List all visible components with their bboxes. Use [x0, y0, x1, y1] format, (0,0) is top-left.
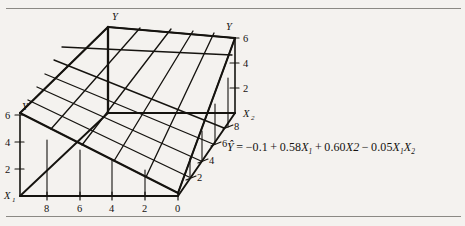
equation-term-3-sign: − — [359, 140, 371, 154]
left-tick-2: 2 — [5, 164, 10, 175]
left-tick-4: 4 — [5, 137, 11, 148]
equation-term-3-var1: X — [393, 140, 400, 154]
left-tick-6: 6 — [5, 110, 10, 121]
x1-tick-0: 0 — [175, 203, 180, 214]
axis-label-x2: X — [242, 108, 250, 119]
equation-term-1-coef: 0.58 — [280, 140, 301, 154]
x2-tick-2: 2 — [197, 172, 202, 183]
figure-container: Y Y 6 4 2 X 2 Y 6 4 2 X 1 8 6 4 2 0 2 4 … — [0, 0, 465, 226]
x2-tick-8: 8 — [234, 121, 239, 132]
x1-tick-6: 6 — [77, 203, 82, 214]
axis-label-x1-sub: 1 — [12, 196, 16, 204]
equation-term-2-var: X2 — [346, 140, 360, 154]
equation-term-1-var: X — [301, 140, 308, 154]
right-tick-6: 6 — [243, 33, 248, 44]
equation-term-1-sign: + — [268, 140, 280, 154]
regression-equation: Ŷ=−0.1+0.58X1+0.60X2−0.05X1X2 — [227, 140, 415, 156]
x1-tick-2: 2 — [142, 203, 147, 214]
x1-tick-4: 4 — [109, 203, 115, 214]
surface-edges — [20, 27, 235, 193]
equation-term-0-coef: 0.1 — [253, 140, 268, 154]
equation-equals: = — [234, 140, 246, 154]
axis-label-x1: X — [3, 190, 11, 201]
response-surface-plot: Y Y 6 4 2 X 2 Y 6 4 2 X 1 8 6 4 2 0 2 4 … — [0, 0, 465, 226]
equation-term-2-sign: + — [312, 140, 324, 154]
x2-tick-4: 4 — [209, 155, 215, 166]
equation-term-0-sign: − — [246, 140, 253, 154]
equation-lhs: Ŷ — [227, 140, 234, 154]
x1-tick-8: 8 — [44, 203, 49, 214]
equation-term-3-sub2: 2 — [411, 147, 415, 156]
equation-term-2-coef: 0.60 — [324, 140, 345, 154]
axis-label-y-back: Y — [112, 11, 119, 22]
axis-label-x2-sub: 2 — [251, 114, 255, 122]
right-tick-4: 4 — [243, 58, 249, 69]
axis-label-y-right: Y — [226, 21, 233, 32]
equation-term-3-coef: 0.05 — [371, 140, 392, 154]
right-tick-2: 2 — [243, 83, 248, 94]
